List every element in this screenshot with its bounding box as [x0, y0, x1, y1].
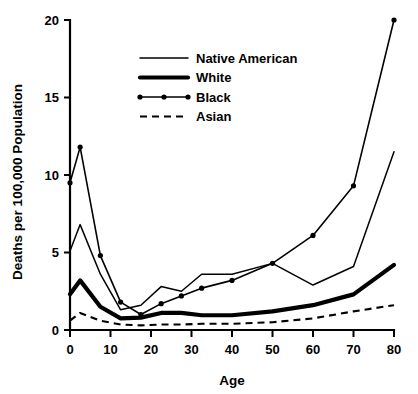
y-tick-label: 15	[45, 90, 59, 105]
legend-label: Black	[196, 90, 231, 105]
y-axis-title: Deaths per 100,000 Population	[10, 84, 25, 280]
data-point-marker	[351, 183, 356, 188]
x-tick-label: 30	[184, 342, 198, 357]
chart-container: 05101520 01020304050607080 Deaths per 10…	[0, 0, 418, 394]
data-point-marker	[391, 17, 396, 22]
data-point-marker	[199, 286, 204, 291]
legend-marker	[185, 94, 190, 99]
data-point-marker	[118, 300, 123, 305]
data-point-marker	[179, 293, 184, 298]
line-chart: 05101520 01020304050607080 Deaths per 10…	[0, 0, 418, 394]
x-tick-label: 20	[144, 342, 158, 357]
x-axis-tick-labels: 01020304050607080	[66, 342, 401, 357]
x-axis-title: Age	[219, 373, 245, 388]
data-point-marker	[270, 261, 275, 266]
legend-label: Native American	[196, 51, 297, 66]
data-point-marker	[67, 180, 72, 185]
x-tick-label: 0	[66, 342, 73, 357]
data-point-marker	[310, 233, 315, 238]
y-tick-label: 0	[52, 323, 59, 338]
x-tick-label: 80	[387, 342, 401, 357]
y-tick-label: 20	[45, 13, 59, 28]
x-tick-label: 10	[103, 342, 117, 357]
y-tick-label: 10	[45, 168, 59, 183]
legend-marker	[161, 94, 166, 99]
data-point-marker	[98, 253, 103, 258]
data-point-marker	[78, 145, 83, 150]
legend-label: Asian	[196, 109, 231, 124]
data-point-marker	[159, 301, 164, 306]
x-tick-label: 40	[225, 342, 239, 357]
x-tick-label: 50	[265, 342, 279, 357]
legend-marker	[137, 94, 142, 99]
x-tick-label: 60	[306, 342, 320, 357]
x-tick-label: 70	[346, 342, 360, 357]
data-point-marker	[138, 312, 143, 317]
data-point-marker	[229, 278, 234, 283]
y-tick-label: 5	[52, 245, 59, 260]
legend-label: White	[196, 70, 231, 85]
